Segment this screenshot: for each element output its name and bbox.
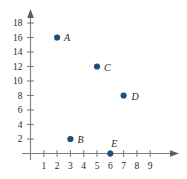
data-point-c: C	[94, 62, 111, 73]
x-axis-group: 123456789	[22, 150, 179, 170]
y-tick-label: 6	[18, 105, 23, 115]
point-label-c: C	[104, 62, 111, 73]
y-tick-label: 18	[13, 18, 23, 28]
y-axis-arrowhead	[27, 9, 34, 18]
y-tick-label: 16	[13, 33, 23, 43]
point-marker-a	[54, 34, 60, 40]
data-point-d: D	[121, 91, 140, 102]
x-tick-label: 6	[108, 161, 113, 171]
x-axis-arrowhead	[170, 150, 179, 157]
point-label-d: D	[131, 91, 140, 102]
data-point-a: A	[54, 32, 71, 43]
data-point-group: ABCDE	[54, 32, 140, 157]
x-tick-label: 8	[135, 161, 140, 171]
x-tick-label: 5	[95, 161, 100, 171]
point-marker-c	[94, 63, 100, 69]
scatter-plot-figure: 24681012141618 123456789 ABCDE	[0, 0, 187, 179]
y-tick-label: 10	[13, 76, 23, 86]
point-marker-e	[107, 150, 113, 156]
x-tick-label: 2	[55, 161, 60, 171]
coordinate-plane: 24681012141618 123456789 ABCDE	[0, 0, 187, 179]
point-label-a: A	[63, 32, 71, 43]
y-tick-label: 14	[13, 47, 23, 57]
y-tick-label: 4	[18, 120, 23, 130]
point-marker-b	[67, 136, 73, 142]
y-tick-labels: 24681012141618	[13, 18, 23, 144]
x-tick-label: 3	[68, 161, 73, 171]
data-point-b: B	[67, 134, 83, 145]
y-tick-label: 8	[18, 91, 23, 101]
point-label-e: E	[110, 138, 117, 149]
point-label-b: B	[77, 134, 83, 145]
y-axis-group: 24681012141618	[13, 9, 34, 160]
x-tick-label: 1	[41, 161, 46, 171]
y-tick-label: 2	[18, 134, 23, 144]
x-tick-labels: 123456789	[41, 161, 152, 171]
x-tick-label: 4	[81, 161, 86, 171]
x-tick-label: 9	[148, 161, 153, 171]
x-tick-label: 7	[121, 161, 126, 171]
point-marker-d	[121, 92, 127, 98]
y-tick-label: 12	[13, 62, 23, 72]
